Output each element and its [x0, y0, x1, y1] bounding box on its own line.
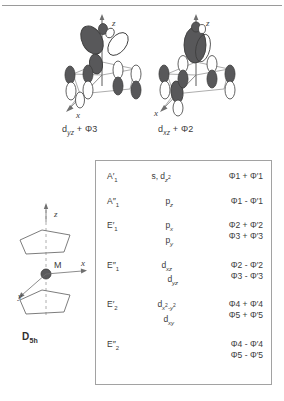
z-axis-label: z	[111, 18, 116, 28]
phi-line: Φ4 - Φ′4	[213, 339, 263, 350]
table-row: E′2 dx2-y2 dxy Φ4 + Φ′4 Φ5 + Φ′5	[96, 299, 271, 328]
orbital-line: py	[165, 235, 212, 250]
symmetry-table-body: A′1 s, dz2 Φ1 + Φ′1 A″1 pz Φ1 -	[96, 161, 271, 361]
phi-combination: Φ4 - Φ′4	[231, 339, 263, 349]
cell-symmetry: E″2	[96, 339, 151, 361]
orbital-svg-dyz: z x	[56, 12, 148, 122]
symmetry-table: A′1 s, dz2 Φ1 + Φ′1 A″1 pz Φ1 -	[95, 160, 272, 385]
y-axis-arrow	[18, 274, 46, 299]
orbital-diagram-dyz-phi3: z x	[56, 12, 148, 126]
cell-symmetry: E′2	[96, 299, 151, 328]
spacer-row	[96, 210, 271, 220]
phi-line: Φ3 - Φ′3	[213, 271, 263, 282]
orbital-label: pz	[165, 196, 173, 206]
phi-combination: Φ5 + Φ′5	[229, 310, 263, 320]
orbital-label: dx2-y2	[157, 299, 175, 309]
figure-page: z x dyz + Φ3	[0, 0, 284, 401]
cell-symmetry: A″1	[96, 196, 151, 211]
divider-rule	[2, 5, 282, 6]
cell-orbitals: dxz dyz	[151, 260, 212, 289]
x-axis-label: x	[153, 108, 158, 118]
spacer-row	[96, 289, 271, 299]
orbital-label: dxz	[161, 260, 172, 270]
spacer-row	[96, 329, 271, 339]
phi-combination: Φ2 + Φ′2	[229, 220, 263, 230]
orbital-line: dx2-y2	[157, 299, 212, 314]
cell-orbitals: px py	[151, 220, 212, 249]
table-row: E′1 px py Φ2 + Φ′2 Φ3 + Φ′3	[96, 220, 271, 249]
orbital-label: dyz	[167, 274, 178, 284]
x-axis-label: x	[75, 110, 80, 120]
x-axis-label: x	[80, 258, 85, 268]
phi-line: Φ2 - Φ′2	[213, 260, 263, 271]
metal-label: M	[54, 260, 62, 270]
orbital-line: dxy	[157, 314, 212, 329]
z-axis-label: z	[53, 209, 58, 219]
cell-orbitals: dx2-y2 dxy	[151, 299, 212, 328]
cell-orbitals	[151, 339, 212, 361]
orbital-label: px	[165, 220, 173, 230]
phi-combination: Φ2 - Φ′2	[231, 260, 263, 270]
symmetry-label: A″1	[107, 196, 119, 206]
orbital-label: s, dz2	[151, 171, 170, 181]
orbital-label: py	[165, 235, 173, 245]
cp-ring-top	[20, 230, 70, 254]
table-row: E″1 dxz dyz Φ2 - Φ′2 Φ3 - Φ′3	[96, 260, 271, 289]
cell-symmetry: A′1	[96, 171, 151, 186]
metallocene-sandwich-diagram: z x y M	[4, 196, 92, 335]
orbital-line: px	[165, 220, 212, 235]
central-d-orbital	[170, 22, 213, 116]
cell-phi: Φ1 - Φ′1	[213, 196, 271, 211]
cell-phi: Φ4 - Φ′4 Φ5 - Φ′5	[213, 339, 271, 361]
symmetry-label: A′1	[107, 171, 118, 181]
phi-combination: Φ3 + Φ′3	[229, 231, 263, 241]
cell-phi: Φ1 + Φ′1	[213, 171, 271, 186]
symmetry-label: E′1	[107, 220, 118, 230]
phi-combination: Φ4 + Φ′4	[229, 299, 263, 309]
phi-line: Φ5 + Φ′5	[213, 310, 263, 321]
cell-symmetry: E′1	[96, 220, 151, 249]
y-axis-label: y	[17, 291, 22, 301]
orbital-line: dyz	[161, 274, 212, 289]
spacer-row	[96, 186, 271, 196]
cell-phi: Φ2 + Φ′2 Φ3 + Φ′3	[213, 220, 271, 249]
orbital-caption-dxz: dxz + Φ2	[158, 124, 194, 136]
phi-combination: Φ3 - Φ′3	[231, 271, 263, 281]
orbital-line: dxz	[161, 260, 212, 275]
cell-orbitals: s, dz2	[151, 171, 212, 186]
phi-combination: Φ5 - Φ′5	[231, 350, 263, 360]
spacer-row	[96, 250, 271, 260]
cp-ring-bottom	[20, 290, 70, 314]
phi-combination: Φ1 - Φ′1	[231, 196, 263, 206]
z-axis-label: z	[205, 18, 210, 28]
table-row: E″2 Φ4 - Φ′4 Φ5 - Φ′5	[96, 339, 271, 361]
symmetry-label: E″1	[107, 260, 119, 270]
orbital-caption-dyz: dyz + Φ3	[62, 124, 98, 136]
cell-phi: Φ4 + Φ′4 Φ5 + Φ′5	[213, 299, 271, 328]
x-axis-arrow	[46, 269, 87, 274]
orbital-diagram-dxz-phi2: z x	[150, 12, 242, 126]
phi-line: Φ2 + Φ′2	[213, 220, 263, 231]
symmetry-label: E′2	[107, 299, 118, 309]
point-group-label: D5h	[22, 331, 38, 344]
cell-symmetry: E″1	[96, 260, 151, 289]
spacer-row	[96, 161, 271, 171]
cell-orbitals: pz	[151, 196, 212, 211]
z-axis-arrow	[44, 203, 48, 222]
orbital-label: dxy	[163, 314, 174, 324]
phi-line: Φ3 + Φ′3	[213, 231, 263, 242]
phi-line: Φ4 + Φ′4	[213, 299, 263, 310]
table-row: A′1 s, dz2 Φ1 + Φ′1	[96, 171, 271, 186]
phi-line: Φ5 - Φ′5	[213, 350, 263, 361]
cell-phi: Φ2 - Φ′2 Φ3 - Φ′3	[213, 260, 271, 289]
sandwich-svg: z x y M	[4, 196, 92, 331]
orbital-svg-dxz: z x	[150, 12, 242, 122]
symmetry-label: E″2	[107, 339, 119, 349]
phi-combination: Φ1 + Φ′1	[229, 171, 263, 181]
table-row: A″1 pz Φ1 - Φ′1	[96, 196, 271, 211]
